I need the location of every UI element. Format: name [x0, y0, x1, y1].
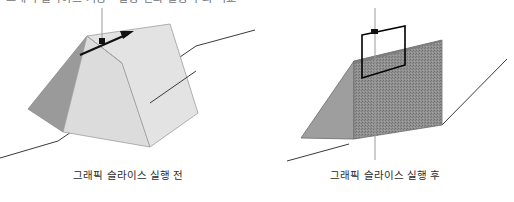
cut-line-right-segment — [196, 30, 255, 46]
figure-page: 그래픽 슬라이스 기능 - 실행 전과 실행 후의 비교 — [0, 0, 514, 202]
slice-anchor-marker — [371, 29, 378, 34]
sliced-wedge-illustration — [257, 8, 514, 168]
cut-line-left-segment — [0, 141, 58, 158]
top-heading-strip: 그래픽 슬라이스 기능 - 실행 전과 실행 후의 비교 — [0, 0, 514, 7]
cut-line-left-segment — [287, 144, 349, 161]
caption-before: 그래픽 슬라이스 실행 전 — [0, 168, 257, 182]
figure-before: 그래픽 슬라이스 실행 전 — [0, 8, 257, 202]
wedge-slope-face — [301, 61, 354, 139]
top-heading-text: 그래픽 슬라이스 기능 - 실행 전과 실행 후의 비교 — [6, 0, 236, 5]
wedge-cut-face-textured — [354, 40, 442, 139]
prism-illustration — [0, 8, 257, 168]
figure-after: 그래픽 슬라이스 실행 후 — [257, 8, 514, 202]
cut-line-right-segment — [442, 59, 507, 125]
insertion-point-marker — [99, 38, 105, 44]
caption-after: 그래픽 슬라이스 실행 후 — [257, 168, 514, 182]
